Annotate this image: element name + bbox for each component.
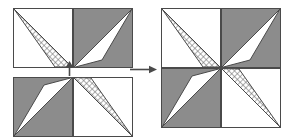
top-rect-cell-right <box>74 9 133 68</box>
arrow-right <box>130 61 158 79</box>
bottom-rectangle <box>13 77 133 137</box>
result-cell-top-right <box>222 9 281 68</box>
bottom-rect-cell-left <box>14 78 73 137</box>
diagram-canvas <box>0 0 285 137</box>
bottom-rect-cell-right <box>74 78 133 137</box>
result-cell-bottom-left <box>162 69 221 128</box>
arrow-up <box>64 61 75 80</box>
result-cell-bottom-right <box>222 69 281 128</box>
top-rectangle <box>13 8 133 69</box>
result-square <box>161 8 281 128</box>
top-rect-cell-left <box>14 9 73 68</box>
result-cell-top-left <box>162 9 221 68</box>
